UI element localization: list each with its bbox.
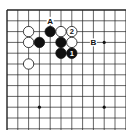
white-stone: [23, 26, 33, 36]
black-stone: [56, 37, 66, 47]
star-point: [38, 106, 41, 109]
black-stone: 1: [67, 48, 77, 58]
white-stone: [23, 59, 33, 69]
point-marker-label: B: [91, 38, 97, 47]
black-stone: [56, 48, 66, 58]
go-board-diagram: 21 AB: [0, 0, 126, 130]
star-point: [103, 106, 106, 109]
black-stone: [34, 37, 44, 47]
move-number-label: 2: [70, 27, 74, 36]
star-point: [103, 41, 106, 44]
move-number-label: 1: [70, 49, 74, 58]
white-stone: [23, 37, 33, 47]
white-stone: 2: [67, 26, 77, 36]
white-stone: [56, 26, 66, 36]
white-stone: [67, 37, 77, 47]
black-stone: [45, 26, 55, 36]
point-marker-label: A: [47, 17, 53, 26]
